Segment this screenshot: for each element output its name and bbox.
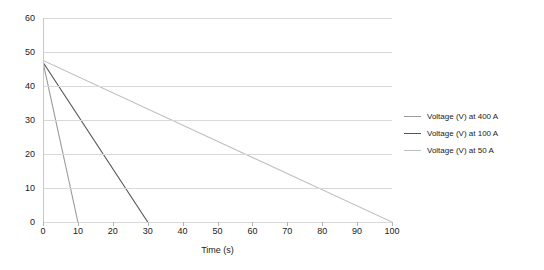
legend-item-voltage-at-50-a[interactable]: Voltage (V) at 50 A (404, 142, 544, 159)
x-tick-label-0: 0 (28, 227, 58, 236)
gridline-30 (43, 120, 392, 121)
y-tick-label-50: 50 (9, 48, 35, 57)
x-axis-title: Time (s) (43, 245, 392, 255)
y-tick-label-40: 40 (9, 82, 35, 91)
legend-item-label: Voltage (V) at 100 A (427, 129, 498, 138)
gridline-20 (43, 154, 392, 155)
y-tick-label-0: 0 (9, 218, 35, 227)
gridline-40 (43, 86, 392, 87)
legend-swatch-icon (404, 116, 421, 117)
y-tick-label-60: 60 (9, 14, 35, 23)
x-tick-label-60: 60 (237, 227, 267, 236)
x-tick-label-10: 10 (63, 227, 93, 236)
legend-item-label: Voltage (V) at 50 A (427, 146, 494, 155)
legend-item-voltage-at-400-a[interactable]: Voltage (V) at 400 A (404, 108, 544, 125)
plot-area (43, 18, 392, 222)
y-tick-label-20: 20 (9, 150, 35, 159)
x-tick-label-90: 90 (342, 227, 372, 236)
legend-swatch-icon (404, 133, 421, 134)
legend-item-voltage-at-100-a[interactable]: Voltage (V) at 100 A (404, 125, 544, 142)
line-chart: 60 50 40 30 20 10 0 0 10 20 30 40 50 60 … (0, 0, 544, 270)
x-tick-label-30: 30 (133, 227, 163, 236)
gridline-60 (43, 18, 392, 19)
x-tick-label-100: 100 (377, 227, 407, 236)
x-tick-label-50: 50 (203, 227, 233, 236)
y-tick-label-10: 10 (9, 184, 35, 193)
y-axis-line (43, 18, 44, 223)
x-tick-label-20: 20 (98, 227, 128, 236)
x-tick-label-70: 70 (272, 227, 302, 236)
legend-item-label: Voltage (V) at 400 A (427, 112, 498, 121)
gridline-10 (43, 188, 392, 189)
y-tick-label-30: 30 (9, 116, 35, 125)
chart-legend: Voltage (V) at 400 A Voltage (V) at 100 … (404, 108, 544, 159)
gridline-50 (43, 52, 392, 53)
legend-swatch-icon (404, 150, 421, 151)
x-tick-label-80: 80 (307, 227, 337, 236)
x-tick-label-40: 40 (168, 227, 198, 236)
